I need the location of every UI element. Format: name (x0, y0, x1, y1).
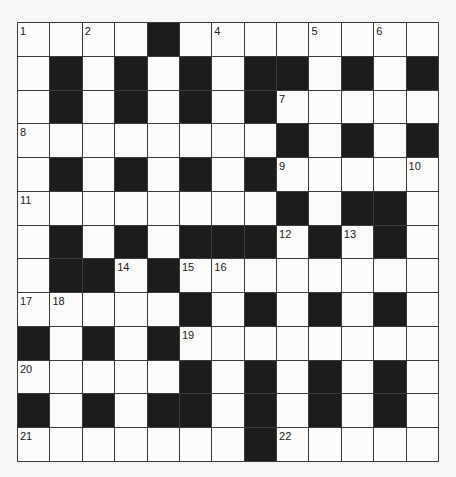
answer-cell[interactable]: 11 (18, 192, 49, 225)
answer-cell[interactable] (342, 361, 373, 394)
answer-cell[interactable] (342, 394, 373, 427)
answer-cell[interactable] (342, 428, 373, 461)
answer-cell[interactable] (115, 124, 146, 157)
answer-cell[interactable] (245, 124, 276, 157)
answer-cell[interactable] (115, 192, 146, 225)
answer-cell[interactable] (148, 158, 179, 191)
answer-cell[interactable]: 15 (180, 259, 211, 292)
answer-cell[interactable] (83, 57, 114, 90)
answer-cell[interactable] (148, 361, 179, 394)
answer-cell[interactable] (342, 158, 373, 191)
answer-cell[interactable]: 1 (18, 23, 49, 56)
answer-cell[interactable]: 16 (212, 259, 243, 292)
answer-cell[interactable] (180, 124, 211, 157)
answer-cell[interactable] (277, 293, 308, 326)
answer-cell[interactable] (83, 361, 114, 394)
answer-cell[interactable] (277, 23, 308, 56)
answer-cell[interactable] (309, 158, 340, 191)
answer-cell[interactable] (50, 428, 81, 461)
answer-cell[interactable] (407, 394, 438, 427)
answer-cell[interactable] (374, 259, 405, 292)
answer-cell[interactable] (50, 192, 81, 225)
answer-cell[interactable] (148, 57, 179, 90)
answer-cell[interactable] (50, 394, 81, 427)
answer-cell[interactable] (212, 124, 243, 157)
answer-cell[interactable]: 18 (50, 293, 81, 326)
answer-cell[interactable] (18, 57, 49, 90)
answer-cell[interactable] (212, 91, 243, 124)
answer-cell[interactable] (309, 259, 340, 292)
answer-cell[interactable] (342, 23, 373, 56)
answer-cell[interactable] (148, 91, 179, 124)
answer-cell[interactable] (374, 428, 405, 461)
answer-cell[interactable] (18, 226, 49, 259)
answer-cell[interactable]: 17 (18, 293, 49, 326)
answer-cell[interactable] (50, 327, 81, 360)
answer-cell[interactable] (245, 192, 276, 225)
answer-cell[interactable]: 2 (83, 23, 114, 56)
answer-cell[interactable] (18, 158, 49, 191)
answer-cell[interactable] (180, 192, 211, 225)
answer-cell[interactable]: 6 (374, 23, 405, 56)
answer-cell[interactable] (309, 91, 340, 124)
answer-cell[interactable] (407, 226, 438, 259)
answer-cell[interactable] (374, 124, 405, 157)
answer-cell[interactable]: 10 (407, 158, 438, 191)
answer-cell[interactable]: 14 (115, 259, 146, 292)
answer-cell[interactable] (212, 327, 243, 360)
answer-cell[interactable] (115, 394, 146, 427)
answer-cell[interactable] (407, 428, 438, 461)
answer-cell[interactable] (83, 428, 114, 461)
answer-cell[interactable] (83, 91, 114, 124)
answer-cell[interactable] (342, 259, 373, 292)
answer-cell[interactable]: 21 (18, 428, 49, 461)
answer-cell[interactable] (374, 91, 405, 124)
answer-cell[interactable]: 9 (277, 158, 308, 191)
answer-cell[interactable] (50, 124, 81, 157)
answer-cell[interactable] (148, 428, 179, 461)
answer-cell[interactable] (115, 428, 146, 461)
answer-cell[interactable] (83, 226, 114, 259)
answer-cell[interactable] (83, 124, 114, 157)
answer-cell[interactable] (148, 192, 179, 225)
answer-cell[interactable] (83, 158, 114, 191)
answer-cell[interactable] (212, 361, 243, 394)
answer-cell[interactable] (407, 259, 438, 292)
answer-cell[interactable] (407, 23, 438, 56)
answer-cell[interactable] (407, 361, 438, 394)
answer-cell[interactable]: 12 (277, 226, 308, 259)
answer-cell[interactable]: 20 (18, 361, 49, 394)
answer-cell[interactable] (212, 293, 243, 326)
answer-cell[interactable] (374, 158, 405, 191)
answer-cell[interactable]: 4 (212, 23, 243, 56)
answer-cell[interactable] (309, 327, 340, 360)
answer-cell[interactable] (342, 293, 373, 326)
answer-cell[interactable] (212, 192, 243, 225)
answer-cell[interactable] (115, 327, 146, 360)
answer-cell[interactable] (309, 192, 340, 225)
answer-cell[interactable] (277, 327, 308, 360)
answer-cell[interactable] (115, 361, 146, 394)
answer-cell[interactable] (50, 23, 81, 56)
answer-cell[interactable] (50, 361, 81, 394)
answer-cell[interactable]: 8 (18, 124, 49, 157)
answer-cell[interactable]: 5 (309, 23, 340, 56)
answer-cell[interactable] (245, 259, 276, 292)
answer-cell[interactable] (212, 158, 243, 191)
answer-cell[interactable] (309, 428, 340, 461)
answer-cell[interactable] (18, 259, 49, 292)
answer-cell[interactable] (245, 23, 276, 56)
answer-cell[interactable] (212, 394, 243, 427)
answer-cell[interactable] (277, 361, 308, 394)
answer-cell[interactable] (115, 23, 146, 56)
answer-cell[interactable]: 7 (277, 91, 308, 124)
answer-cell[interactable] (374, 327, 405, 360)
answer-cell[interactable] (407, 192, 438, 225)
answer-cell[interactable] (277, 394, 308, 427)
answer-cell[interactable]: 19 (180, 327, 211, 360)
answer-cell[interactable] (212, 428, 243, 461)
answer-cell[interactable] (407, 327, 438, 360)
answer-cell[interactable] (148, 124, 179, 157)
answer-cell[interactable] (148, 293, 179, 326)
answer-cell[interactable] (245, 327, 276, 360)
